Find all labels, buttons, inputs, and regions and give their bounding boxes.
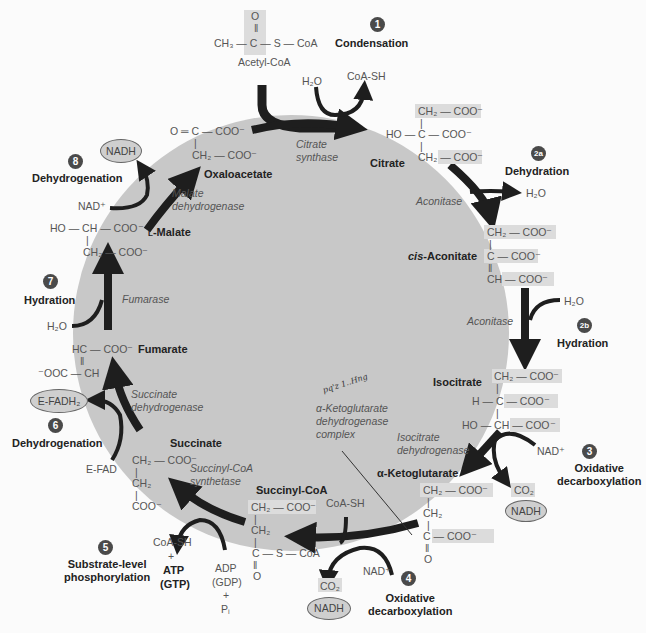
oxaloacetate-label: Oxaloacetate	[204, 168, 272, 180]
enzyme-isocitrate-dh: Isocitratedehydrogenase	[397, 431, 469, 457]
step-2b-label: Hydration	[557, 337, 608, 350]
step-6-badge: 6	[48, 418, 63, 433]
malate-label: L-Malate	[148, 226, 191, 240]
succinyl-coa-row3: C — S — CoA	[252, 547, 320, 559]
nadh-step4: NADH	[307, 597, 351, 620]
enzyme-line: synthetase	[190, 475, 253, 488]
step-4-badge: 4	[401, 571, 416, 586]
isocitrate-row3: HO — CH — COO⁻	[462, 419, 556, 431]
atp: ATP	[163, 564, 184, 577]
nadh-step8: NADH	[100, 139, 142, 163]
nad-step3: NAD⁺	[537, 445, 565, 457]
enzyme-malate-dh: Malatedehydrogenase	[172, 187, 244, 213]
step-7-label: Hydration	[24, 294, 75, 307]
enzyme-line: Succinate	[131, 388, 203, 401]
step-6-label: Dehydrogenation	[12, 437, 102, 450]
step-3-badge: 3	[582, 444, 597, 459]
enzyme-line: dehydrogenase	[397, 444, 469, 457]
cis-aconitate-bond1: |	[489, 238, 492, 250]
enzyme-citrate-synthase: Citratesynthase	[296, 138, 338, 164]
enzyme-fumarase: Fumarase	[122, 293, 169, 306]
enzyme-line: dehydrogenase	[316, 415, 388, 428]
gdp: (GDP)	[212, 576, 242, 588]
step-1-label: Condensation	[335, 37, 408, 50]
alpha-ketoglutarate-label: α-Ketoglutarate	[377, 467, 458, 479]
citrate-label: Citrate	[370, 157, 405, 169]
succinyl-coa-label: Succinyl-CoA	[256, 484, 328, 496]
co2-step4: CO₂	[320, 580, 340, 592]
enzyme-aconitase-2: Aconitase	[467, 315, 513, 328]
citrate-row3: CH₂ — COO⁻	[418, 151, 484, 163]
step-5-label: Substrate-level phosphorylation	[64, 558, 150, 584]
enzyme-line: complex	[316, 428, 388, 441]
succinyl-coa-row2: CH₂	[251, 524, 270, 536]
acetyl-coa-oxygen: O	[251, 10, 259, 22]
step-4-label: Oxidative decarboxylation	[368, 592, 452, 618]
gtp: (GTP)	[160, 578, 190, 591]
h2o-step7: H₂O	[47, 320, 67, 332]
nad-step8: NAD⁺	[78, 200, 106, 212]
step-5-line2: phosphorylation	[64, 571, 150, 584]
step-1-badge: 1	[370, 17, 385, 32]
enzyme-aconitase-1: Aconitase	[416, 195, 462, 208]
akg-row1: CH₂ — COO⁻	[423, 484, 489, 496]
step-2a-badge: 2a	[531, 146, 546, 161]
step-8-badge: 8	[68, 154, 83, 169]
cis-aconitate-row1: CH₂ — COO⁻	[487, 226, 553, 238]
succinate-row1: CH₂ — COO⁻	[132, 454, 198, 466]
fumarate-bond: ‖	[80, 355, 84, 367]
enzyme-succinate-dh: Succinatedehydrogenase	[131, 388, 203, 414]
plus-step5: +	[168, 550, 174, 562]
enzyme-succinyl-coa-synthetase: Succinyl-CoAsynthetase	[190, 462, 253, 488]
nadh-step3: NADH	[505, 500, 547, 522]
citric-acid-cycle-diagram: O ‖ CH₃ — C — S — CoA Acetyl-CoA 1 Conde…	[0, 0, 646, 633]
isocitrate-row2: H — C — COO⁻	[472, 395, 550, 407]
isocitrate-row1: CH₂ — COO⁻	[494, 370, 560, 382]
enzyme-line: dehydrogenase	[131, 401, 203, 414]
step-2a-label: Dehydration	[505, 165, 569, 178]
h2o-step2b: H₂O	[564, 295, 584, 307]
nad-step4: NAD⁺	[363, 565, 391, 577]
step-3-label: Oxidative decarboxylation	[557, 462, 641, 488]
step-3-line1: Oxidative	[557, 462, 641, 475]
co2-step3: CO₂	[514, 484, 534, 496]
cis-aconitate-row3: CH — COO⁻	[487, 273, 548, 285]
cis-aconitate-name: -Aconitate	[423, 250, 477, 262]
step-8-label: Dehydrogenation	[32, 172, 122, 185]
step-2b-badge: 2b	[577, 318, 592, 333]
step-7-badge: 7	[43, 274, 58, 289]
akg-row2: CH₂	[423, 507, 442, 519]
succinate-row2: CH₂	[132, 477, 151, 489]
malate-row1: HO — CH — COO⁻	[50, 222, 144, 234]
h2o-step2a: H₂O	[526, 187, 546, 199]
step-3-line2: decarboxylation	[557, 475, 641, 488]
enzyme-line: Isocitrate	[397, 431, 469, 444]
enzyme-line: α-Ketoglutarate	[316, 402, 388, 415]
succinyl-coa-row1: CH₂ — COO⁻	[251, 501, 317, 513]
cis-aconitate-label: cis-Aconitate	[408, 250, 477, 262]
malate-row2: CH₂ — COO⁻	[83, 246, 149, 258]
citrate-row2: HO — C — COO⁻	[386, 128, 472, 140]
malate-bond: |	[86, 234, 89, 246]
succinate-row3: COO⁻	[132, 500, 162, 512]
fumarate-row1: HC — COO⁻	[72, 343, 133, 355]
isocitrate-label: Isocitrate	[433, 376, 482, 388]
enzyme-akg-dh-complex: α-Ketoglutaratedehydrogenasecomplex	[316, 402, 388, 441]
citrate-row1: CH₂ — COO⁻	[418, 105, 484, 117]
step-5-badge: 5	[98, 540, 113, 555]
acetyl-coa-double-bond: ‖	[254, 22, 258, 34]
coa-sh-step1: CoA-SH	[347, 70, 386, 82]
coa-sh-step5: CoA-SH	[153, 536, 192, 548]
oxaloacetate-row1: O ═ C — COO⁻	[170, 125, 245, 137]
akg-row4: O	[424, 553, 432, 565]
e-fad: E-FAD	[86, 463, 117, 475]
adp: ADP	[215, 562, 237, 574]
fumarate-row2: ⁻OOC — CH	[38, 367, 99, 379]
plus-step5b: +	[223, 589, 229, 601]
step-5-line1: Substrate-level	[64, 558, 150, 571]
cis-aconitate-row2: C — COO⁻	[487, 250, 541, 262]
succinyl-coa-row4: O	[253, 570, 261, 582]
isocitrate-bond2: |	[496, 407, 499, 419]
acetyl-coa-label: Acetyl-CoA	[238, 56, 291, 68]
enzyme-line: Succinyl-CoA	[190, 462, 253, 475]
